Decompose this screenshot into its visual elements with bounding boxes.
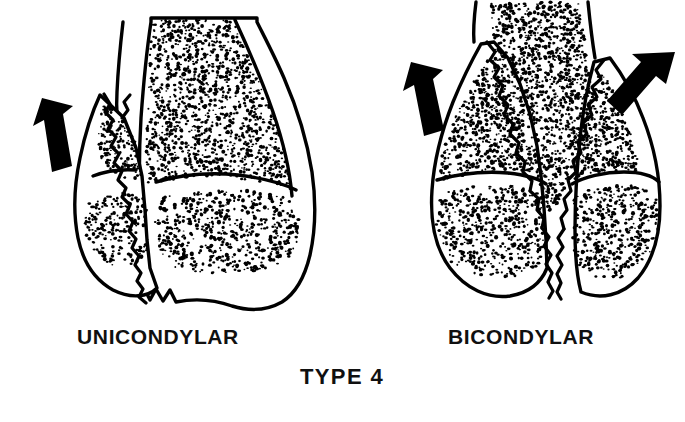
panel-unicondylar: UNICONDYLAR [33, 18, 315, 348]
type-label: TYPE 4 [300, 364, 384, 389]
bicondylar-shaft-left-cortex [474, 2, 476, 42]
bicondylar-shaft-right-cortex [588, 2, 595, 58]
bicondylar-caption: BICONDYLAR [448, 325, 594, 348]
condylar-fracture-diagram: UNICONDYLAR [0, 0, 685, 422]
bicondylar-displacement-arrow-left [403, 62, 444, 136]
figure-root: UNICONDYLAR [0, 0, 685, 422]
unicondylar-displacement-arrow [33, 98, 73, 172]
unicondylar-fracture-line-upper-branch [122, 95, 130, 118]
unicondylar-caption: UNICONDYLAR [77, 325, 239, 348]
panel-bicondylar: BICONDYLAR [403, 1, 675, 348]
bicondylar-central-split-right [557, 229, 564, 299]
